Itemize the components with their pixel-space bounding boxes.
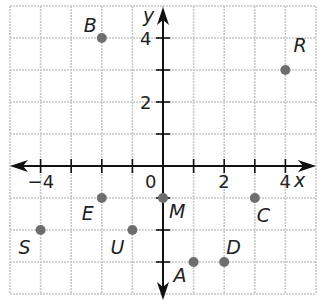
point-marker-icon (97, 193, 107, 203)
point-r: R (280, 34, 306, 75)
tick-labels: −424420xy (28, 4, 306, 192)
y-tick-label: 2 (140, 92, 151, 113)
point-marker-icon (219, 257, 229, 267)
point-marker-icon (189, 257, 199, 267)
point-label: C (257, 204, 271, 226)
point-label: U (110, 236, 124, 258)
point-marker-icon (250, 193, 260, 203)
point-marker-icon (158, 193, 168, 203)
point-marker-icon (127, 225, 137, 235)
point-label: D (226, 236, 241, 258)
axes (10, 7, 316, 300)
point-label: E (82, 202, 94, 224)
point-label: R (293, 34, 306, 56)
point-marker-icon (36, 225, 46, 235)
y-axis-label: y (142, 4, 155, 26)
x-tick-label: −4 (28, 171, 55, 192)
coordinate-plane: −424420xy BRESUMCAD (0, 0, 320, 304)
point-marker-icon (280, 65, 290, 75)
point-label: B (84, 14, 97, 36)
point-label: S (19, 236, 31, 258)
y-tick-label: 4 (140, 28, 151, 49)
x-tick-label: 2 (218, 171, 229, 192)
x-tick-label: 4 (279, 171, 290, 192)
point-label: M (169, 200, 185, 222)
origin-label: 0 (145, 171, 156, 192)
x-axis-label: x (293, 169, 306, 191)
point-label: A (172, 264, 187, 286)
point-marker-icon (97, 33, 107, 43)
point-u: U (110, 225, 137, 258)
